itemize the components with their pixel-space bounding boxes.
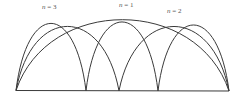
string-baseline <box>16 91 229 92</box>
mode-n3-arch-2 <box>86 22 158 91</box>
mode-n1-arch <box>16 20 229 91</box>
standing-wave-diagram: n = 3 n = 1 n = 2 <box>0 0 234 99</box>
mode-n3-arch-3 <box>158 25 229 91</box>
mode-n2-arch-1 <box>16 26 119 90</box>
label-n2: n = 2 <box>167 8 181 15</box>
wave-svg <box>0 0 234 99</box>
label-n2-value: = 2 <box>171 7 182 15</box>
mode-n2-arch-2 <box>119 26 229 91</box>
label-n1-value: = 1 <box>123 1 134 9</box>
label-n1: n = 1 <box>119 2 133 9</box>
label-n3-value: = 3 <box>46 3 57 11</box>
label-n3: n = 3 <box>42 4 56 11</box>
